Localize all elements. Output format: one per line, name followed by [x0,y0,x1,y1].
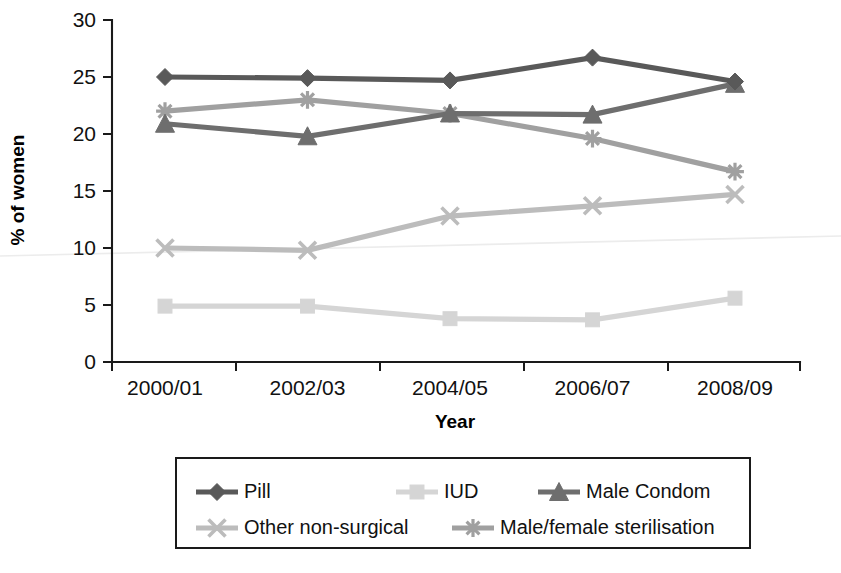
legend-label: Male Condom [586,480,711,502]
series-marker [299,91,317,109]
series-marker [584,49,601,66]
legend-label: Male/female sterilisation [500,516,715,538]
chart-axes: 0510152025302000/012002/032004/052006/07… [73,8,800,400]
chart-figure: 0510152025302000/012002/032004/052006/07… [0,0,841,573]
scan-artifact-line [0,236,841,256]
legend-marker [464,519,482,537]
series-iud [158,291,742,327]
y-axis-tick-label: 20 [73,122,96,145]
series-marker [158,299,172,313]
legend-label: Other non-surgical [244,516,409,538]
series-marker [728,291,742,305]
x-axis-tick-label: 2002/03 [270,376,346,399]
legend-label: Pill [244,480,271,502]
series-marker [584,130,602,148]
legend-label: IUD [444,480,478,502]
x-axis-tick-label: 2008/09 [697,376,773,399]
y-axis-tick-label: 15 [73,179,96,202]
series-polyline [165,194,735,250]
y-axis-tick-label: 10 [73,236,96,259]
series-other-non-surgical [157,186,744,259]
series-marker [157,69,174,86]
series-pill [157,49,744,90]
series-marker [442,72,459,89]
series-marker [301,299,315,313]
x-axis-tick-label: 2004/05 [412,376,488,399]
x-axis-title: Year [435,411,476,432]
series-marker [726,163,744,181]
x-axis-tick-label: 2000/01 [127,376,203,399]
x-axis-tick-label: 2006/07 [555,376,631,399]
y-axis-tick-label: 0 [84,350,96,373]
series-marker [299,70,316,87]
y-axis-tick-label: 30 [73,8,96,31]
series-marker [443,312,457,326]
chart-legend: PillIUDMale CondomOther non-surgicalMale… [176,458,750,548]
y-axis-tick-label: 5 [84,293,96,316]
legend-marker [410,485,424,499]
y-axis-tick-label: 25 [73,65,96,88]
line-chart-svg: 0510152025302000/012002/032004/052006/07… [0,0,841,573]
y-axis-title: % of women [7,135,28,246]
chart-series [156,49,745,327]
series-marker [586,313,600,327]
